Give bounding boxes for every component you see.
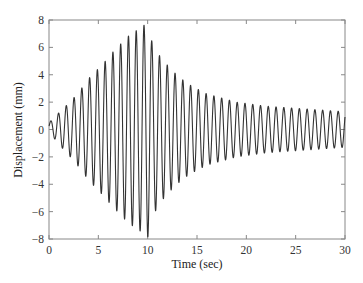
x-tick-label: 30 — [339, 244, 351, 256]
x-tick-label: 0 — [46, 244, 52, 256]
x-tick-label: 25 — [290, 244, 302, 256]
y-tick-label: 8 — [38, 14, 44, 26]
plot-area — [49, 20, 345, 239]
x-tick-label: 10 — [142, 244, 154, 256]
y-tick-label: −6 — [32, 206, 44, 218]
y-tick-label: −2 — [32, 151, 44, 163]
y-tick-label: −8 — [32, 233, 44, 245]
x-tick-label: 20 — [241, 244, 253, 256]
y-tick-label: 0 — [38, 124, 44, 136]
y-tick-label: −4 — [32, 178, 44, 190]
y-tick-label: 4 — [38, 69, 44, 81]
y-tick-label: 2 — [38, 96, 44, 108]
y-axis-label: Displacement (mm) — [11, 82, 25, 178]
x-tick-label: 5 — [95, 244, 101, 256]
x-tick-label: 15 — [191, 244, 203, 256]
y-tick-label: 6 — [38, 41, 44, 53]
displacement-time-chart: 051015202530 −8−6−4−202468 Time (sec) Di… — [0, 0, 363, 283]
x-axis-label: Time (sec) — [171, 257, 222, 271]
